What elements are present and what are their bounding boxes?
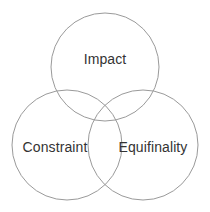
venn-label-constraint: Constraint [23, 140, 88, 154]
venn-label-equifinality: Equifinality [119, 140, 188, 154]
venn-label-impact: Impact [84, 52, 127, 66]
venn-circles-group [0, 0, 210, 212]
venn-diagram: Impact Constraint Equifinality [0, 0, 210, 212]
